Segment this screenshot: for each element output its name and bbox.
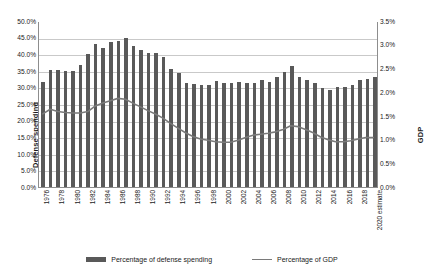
y-axis-left-tick-label: 0.0% <box>10 185 36 192</box>
y-axis-right-ticks: 3.5%3.0%2.5%2.0%1.5%1.0%0.5%0.0% <box>380 0 408 269</box>
y-axis-left-tick-label: 10.0% <box>10 152 36 159</box>
legend-label: Percentage of defense spending <box>111 256 212 263</box>
y-axis-right-tick-label: 0.0% <box>380 185 408 192</box>
x-axis-tick-label: 1994 <box>180 190 186 204</box>
legend-item[interactable]: Percentage of defense spending <box>86 256 212 263</box>
x-axis-tick-label: 1986 <box>120 190 126 204</box>
y-axis-left-tick-label: 40.0% <box>10 52 36 59</box>
legend-line-swatch-icon <box>252 259 272 260</box>
x-axis-tick-label: 2014 <box>331 190 337 204</box>
chart-container: Defense spending 50.0%45.0%40.0%35.0%30.… <box>0 0 424 269</box>
legend-bar-swatch-icon <box>86 257 106 262</box>
plot-area <box>38 22 378 188</box>
x-axis-tick-label: 2002 <box>241 190 247 204</box>
y-axis-left-tick-label: 15.0% <box>10 135 36 142</box>
y-axis-right-tick-label: 0.5% <box>380 161 408 168</box>
x-axis-tick-label: 1982 <box>90 190 96 204</box>
x-axis-tick-label: 1996 <box>195 190 201 204</box>
x-axis-tick-label: 2006 <box>271 190 277 204</box>
x-axis-tick-label: 2010 <box>301 190 307 204</box>
y-axis-left-tick-label: 20.0% <box>10 118 36 125</box>
x-axis-tick-label: 1992 <box>165 190 171 204</box>
x-axis-tick-label: 1988 <box>135 190 141 204</box>
y-axis-right-tick-label: 3.5% <box>380 19 408 26</box>
y-axis-left-tick-label: 30.0% <box>10 85 36 92</box>
x-axis-tick-label: 2016 <box>347 190 353 204</box>
x-axis-ticks: 1976197819801982198419861988199019921994… <box>38 190 378 246</box>
line-series <box>39 22 377 187</box>
x-axis-tick-label: 1980 <box>75 190 81 204</box>
y-axis-right-tick-label: 2.0% <box>380 90 408 97</box>
y-axis-left-tick-label: 45.0% <box>10 35 36 42</box>
y-axis-right-title: GDP <box>416 126 424 143</box>
y-axis-left-tick-label: 25.0% <box>10 102 36 109</box>
y-axis-left-tick-label: 35.0% <box>10 69 36 76</box>
y-axis-right-tick-label: 3.0% <box>380 42 408 49</box>
x-axis-tick-label: 1984 <box>105 190 111 204</box>
y-axis-left-ticks: 50.0%45.0%40.0%35.0%30.0%25.0%20.0%15.0%… <box>10 0 36 269</box>
x-axis-tick-label: 1998 <box>211 190 217 204</box>
y-axis-left-tick-label: 5.0% <box>10 168 36 175</box>
x-axis-tick-label: 2000 <box>226 190 232 204</box>
y-axis-left-tick-label: 50.0% <box>10 19 36 26</box>
x-axis-tick-label: 2008 <box>286 190 292 204</box>
chart-legend: Percentage of defense spendingPercentage… <box>0 256 424 263</box>
x-axis-tick-label: 2020 estimate <box>377 190 383 230</box>
y-axis-right-tick-label: 1.0% <box>380 137 408 144</box>
y-axis-right-tick-label: 1.5% <box>380 114 408 121</box>
x-axis-tick-label: 2012 <box>316 190 322 204</box>
x-axis-tick-label: 2018 <box>362 190 368 204</box>
legend-label: Percentage of GDP <box>277 256 338 263</box>
legend-item[interactable]: Percentage of GDP <box>252 256 338 263</box>
y-axis-right-tick-label: 2.5% <box>380 66 408 73</box>
x-axis-tick-label: 1990 <box>150 190 156 204</box>
x-axis-tick-label: 1976 <box>44 190 50 204</box>
x-axis-tick-label: 1978 <box>59 190 65 204</box>
x-axis-tick-label: 2004 <box>256 190 262 204</box>
